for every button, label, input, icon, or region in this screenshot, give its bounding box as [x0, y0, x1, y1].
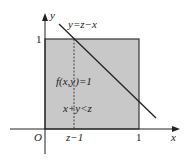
x-axis-label: x	[170, 131, 176, 143]
origin-label: O	[34, 131, 42, 143]
density-label: f(x,y)=1	[56, 75, 92, 88]
line-label: y=z−x	[67, 18, 97, 30]
x-tick-one: 1	[136, 131, 142, 143]
x-tick-z-minus-1: z−1	[65, 131, 83, 143]
y-tick-one: 1	[36, 33, 42, 45]
y-axis-arrow-icon	[42, 13, 48, 21]
y-axis-label: y	[49, 9, 55, 21]
diagram-canvas: y x O 1 1 z−1 y=z−x f(x,y)=1 x+y<z	[0, 0, 189, 162]
inequality-label: x+y<z	[62, 102, 93, 114]
